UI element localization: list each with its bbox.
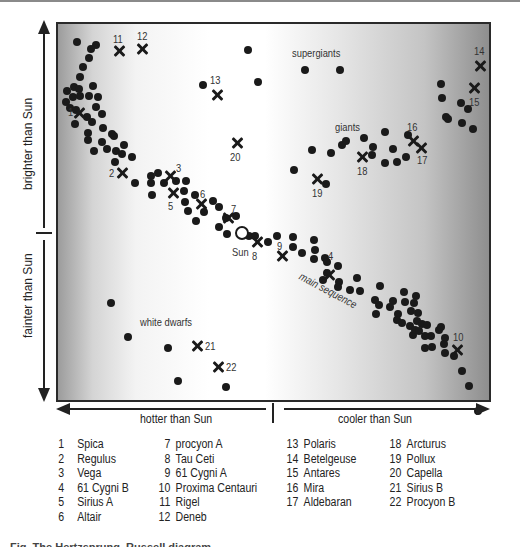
star-dot [254, 78, 262, 86]
top-border-line [0, 0, 520, 2]
named-star-marker [212, 361, 224, 373]
star-dot [111, 158, 119, 166]
star-dot [290, 166, 298, 174]
star-dot [368, 151, 376, 159]
star-dot [441, 349, 449, 357]
named-star-marker [323, 269, 335, 281]
star-dot [421, 344, 429, 352]
star-dot [311, 246, 319, 254]
star-dot [182, 177, 190, 185]
named-star-marker [451, 344, 463, 356]
star-dot [298, 249, 306, 257]
named-star-marker [73, 107, 85, 119]
legend-item: 12Deneb [158, 510, 257, 525]
star-dot [410, 299, 418, 307]
named-star-marker [167, 187, 179, 199]
named-star-marker [356, 151, 368, 163]
star-dot [428, 343, 436, 351]
star-dot [465, 382, 473, 390]
named-star-marker [113, 45, 125, 57]
legend-item: 20Capella [389, 466, 455, 481]
star-dot [376, 282, 384, 290]
star-dot [264, 238, 272, 246]
star-dot [76, 92, 84, 100]
y-label-brighter: brighter than Sun [21, 98, 35, 190]
star-dot [401, 298, 409, 306]
star-dot [356, 287, 364, 295]
star-dot [386, 303, 394, 311]
star-dot [289, 233, 297, 241]
sun-marker [235, 226, 249, 240]
legend-item: 18Arcturus [389, 437, 455, 452]
legend-item: 11Rigel [158, 495, 257, 510]
star-dot [342, 137, 350, 145]
x-axis-hotter-line [66, 408, 266, 410]
star-number-label: 5 [168, 200, 173, 212]
star-dot [389, 145, 397, 153]
star-dot [353, 274, 361, 282]
sun-label: Sun [232, 246, 249, 258]
legend-item: 10Proxima Centauri [158, 481, 257, 496]
legend-item: 461 Cygni B [57, 481, 129, 496]
star-dot [110, 132, 118, 140]
arrow-down-icon [38, 388, 50, 402]
star-dot [371, 296, 379, 304]
star-dot [308, 146, 316, 154]
legend-item: 1Spica [57, 437, 129, 452]
star-dot [148, 191, 156, 199]
named-star-marker [474, 60, 486, 72]
star-dot [164, 344, 172, 352]
star-number-label: 9 [277, 240, 282, 252]
star-number-label: 13 [210, 74, 220, 86]
star-dot [85, 92, 93, 100]
star-dot [71, 120, 79, 128]
star-number-label: 12 [137, 30, 147, 42]
legend-item: 2Regulus [57, 452, 129, 467]
star-dot [322, 180, 330, 188]
region-label: white dwarfs [140, 316, 192, 328]
star-dot [73, 38, 81, 46]
named-star-marker [116, 167, 128, 179]
named-star-marker [191, 340, 203, 352]
star-dot [76, 73, 84, 81]
named-star-marker [211, 89, 223, 101]
legend-column-1: 1Spica 2Regulus 3Vega 461 Cygni B 5Siriu… [57, 437, 139, 524]
legend-item: 5Sirius A [57, 495, 129, 510]
star-dot [415, 327, 423, 335]
legend-item: 19Pollux [389, 452, 455, 467]
star-dot [289, 243, 297, 251]
star-dot [437, 80, 445, 88]
star-number-label: 4 [328, 250, 333, 262]
legend-column-2: 7procyon A 8Tau Ceti 961 Cygni A 10Proxi… [158, 437, 271, 524]
star-dot [103, 145, 111, 153]
legend-column-3: 13Polaris 14Betelgeuse 15Antares 16Mira … [286, 437, 366, 510]
y-axis-sun-tick [36, 232, 52, 234]
legend-item: 22Procyon B [389, 495, 455, 510]
star-dot [107, 299, 115, 307]
star-number-label: 15 [469, 96, 479, 108]
star-dot [458, 119, 466, 127]
legend-item: 15Antares [286, 466, 356, 481]
named-star-marker [164, 170, 176, 182]
legend-item: 8Tau Ceti [158, 452, 257, 467]
star-dot [336, 66, 344, 74]
star-dot [393, 158, 401, 166]
star-number-label: 21 [205, 340, 215, 352]
star-dot [120, 141, 128, 149]
star-dot [184, 207, 192, 215]
star-dot [128, 153, 136, 161]
star-dot [398, 319, 406, 327]
legend-item: 7procyon A [158, 437, 257, 452]
star-dot [181, 198, 189, 206]
star-number-label: 1 [68, 106, 73, 118]
star-dot [442, 113, 450, 121]
star-dot [381, 128, 389, 136]
legend-item: 13Polaris [286, 437, 356, 452]
x-label-hotter: hotter than Sun [140, 412, 212, 426]
star-dot [369, 143, 377, 151]
star-dot [84, 136, 92, 144]
star-number-label: 18 [357, 165, 367, 177]
x-axis-cooler-line [284, 408, 480, 410]
star-dot [273, 232, 281, 240]
star-number-label: 10 [453, 331, 463, 343]
